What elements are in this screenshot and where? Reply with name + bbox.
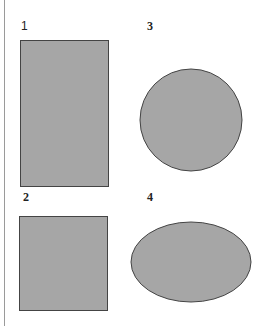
rectangle-shape-1 [21,41,109,187]
ellipse-shape-4 [131,222,251,302]
square-shape-2 [20,217,108,311]
shapes-canvas [0,0,263,336]
circle-shape-3 [140,69,242,171]
